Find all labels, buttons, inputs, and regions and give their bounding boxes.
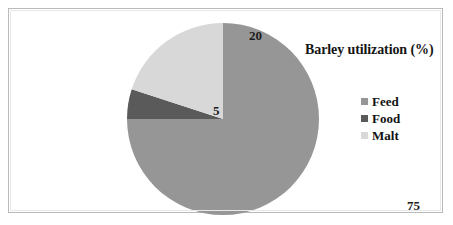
legend-item-food: Food bbox=[361, 110, 441, 126]
pie-data-label-feed: 75 bbox=[407, 199, 420, 212]
legend-label-malt: Malt bbox=[372, 129, 399, 142]
legend-swatch-malt bbox=[361, 132, 368, 139]
legend-label-food: Food bbox=[372, 112, 400, 125]
chart-legend: Feed Food Malt bbox=[361, 93, 441, 144]
legend-swatch-food bbox=[361, 115, 368, 122]
pie-plot-area: 20 5 75 bbox=[119, 15, 319, 215]
pie-data-label-food: 5 bbox=[213, 104, 220, 117]
chart-title: Barley utilization (%) bbox=[305, 42, 433, 58]
legend-swatch-feed bbox=[361, 98, 368, 105]
chart-frame: 20 5 75 Barley utilization (%) Feed Food… bbox=[8, 8, 443, 213]
pie-data-label-malt: 20 bbox=[249, 29, 262, 42]
legend-label-feed: Feed bbox=[372, 95, 399, 108]
legend-item-malt: Malt bbox=[361, 127, 441, 143]
legend-item-feed: Feed bbox=[361, 93, 441, 109]
chart-screenshot: 20 5 75 Barley utilization (%) Feed Food… bbox=[0, 0, 453, 225]
